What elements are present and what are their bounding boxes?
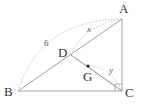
label-d: D xyxy=(58,45,67,60)
label-c: C xyxy=(125,85,134,100)
label-g: G xyxy=(83,69,92,84)
point-g xyxy=(86,64,89,67)
label-length-y: y xyxy=(108,65,113,75)
label-a: A xyxy=(119,1,129,16)
label-length-6: 6 xyxy=(44,38,49,48)
label-b: B xyxy=(4,84,13,99)
label-length-x: x xyxy=(86,24,91,34)
segment-dc xyxy=(71,55,122,91)
triangle-diagram: A B C D G 6 x y xyxy=(0,0,144,106)
